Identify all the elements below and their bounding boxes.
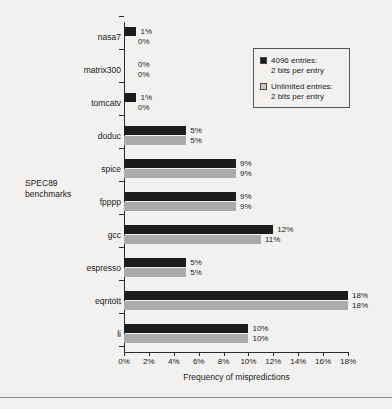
bar-value-label: 5% xyxy=(190,268,202,277)
chart-legend: 4096 entries: 2 bits per entry Unlimited… xyxy=(253,48,350,108)
bar-dark xyxy=(124,258,186,267)
x-axis-tick xyxy=(273,352,274,356)
y-axis-category-label-text: doduc xyxy=(3,131,121,141)
bar-value-label: 11% xyxy=(265,235,280,244)
x-axis-tick-label: 12% xyxy=(261,357,285,367)
bar-group: 18%18% xyxy=(124,291,348,310)
legend-swatch-dark-icon xyxy=(260,57,267,64)
bar-value-label: 18% xyxy=(352,301,368,310)
legend-entry-4096-line2: 2 bits per entry xyxy=(271,66,324,76)
y-axis-tick xyxy=(119,214,124,215)
y-axis-category-label-text: fpppp xyxy=(3,197,121,207)
x-axis-tick xyxy=(149,352,150,356)
bar-group: 9%9% xyxy=(124,159,348,178)
x-axis-tick-label: 0% xyxy=(112,357,136,367)
bar-light xyxy=(124,235,261,244)
bar-light xyxy=(124,202,236,211)
y-axis-category-label-text: espresso xyxy=(3,263,121,273)
bar-group: 5%5% xyxy=(124,126,348,145)
x-axis-line xyxy=(124,352,349,353)
bar-value-label: 0% xyxy=(138,60,150,69)
bar-light xyxy=(124,169,236,178)
bar-dark xyxy=(124,27,136,36)
bar-value-label: 0% xyxy=(138,70,150,79)
bar-value-label: 9% xyxy=(240,159,252,168)
y-axis-title-line1: SPEC89 xyxy=(25,178,71,189)
bar-light xyxy=(124,268,186,277)
legend-entry-4096-line1: 4096 entries: xyxy=(271,56,317,66)
x-axis-tick-label: 4% xyxy=(162,357,186,367)
y-axis-tick xyxy=(119,115,124,116)
y-axis-tick xyxy=(119,16,124,17)
y-axis-category-label-text: spice xyxy=(3,164,121,174)
bar-value-label: 5% xyxy=(190,136,202,145)
x-axis-title: Frequency of mispredictions xyxy=(124,372,349,382)
y-axis-tick xyxy=(119,148,124,149)
x-axis-tick-label: 2% xyxy=(137,357,161,367)
bar-value-label: 1% xyxy=(140,93,152,102)
y-axis-tick xyxy=(119,280,124,281)
bar-dark xyxy=(124,192,236,201)
x-axis-tick xyxy=(174,352,175,356)
bar-group: 1%0% xyxy=(124,27,348,46)
bar-value-label: 10% xyxy=(252,324,268,333)
y-axis-category-label-text: eqntott xyxy=(3,296,121,306)
bar-chart-figure: SPEC89 benchmarks nasa71%0%matrix3000%0%… xyxy=(0,0,392,409)
y-axis-category-label-text: tomcatv xyxy=(3,98,121,108)
y-axis-category-label-text: matrix300 xyxy=(3,65,121,75)
x-axis-tick xyxy=(224,352,225,356)
bar-value-label: 18% xyxy=(352,291,368,300)
legend-swatch-light-icon xyxy=(260,83,267,90)
y-axis-category-label-text: nasa7 xyxy=(3,32,121,42)
x-axis-tick-label: 10% xyxy=(236,357,260,367)
x-axis-tick xyxy=(323,352,324,356)
x-axis-tick-label: 8% xyxy=(212,357,236,367)
y-axis-category-label-text: gcc xyxy=(3,230,121,240)
x-axis-tick xyxy=(248,352,249,356)
x-axis-tick xyxy=(298,352,299,356)
bar-dark xyxy=(124,126,186,135)
y-axis-tick xyxy=(119,313,124,314)
bar-value-label: 9% xyxy=(240,202,252,211)
bar-group: 12%11% xyxy=(124,225,348,244)
x-axis-tick-label: 16% xyxy=(311,357,335,367)
x-axis-tick-label: 18% xyxy=(336,357,360,367)
y-axis-tick xyxy=(119,49,124,50)
y-axis-tick xyxy=(119,82,124,83)
bar-value-label: 0% xyxy=(138,103,150,112)
bar-light xyxy=(124,136,186,145)
x-axis-tick-label: 6% xyxy=(187,357,211,367)
x-axis-tick xyxy=(199,352,200,356)
legend-entry-unlimited-line2: 2 bits per entry xyxy=(271,92,324,102)
bar-value-label: 9% xyxy=(240,169,252,178)
bar-value-label: 5% xyxy=(190,258,202,267)
bar-value-label: 0% xyxy=(138,37,150,46)
bar-light xyxy=(124,334,248,343)
bar-value-label: 12% xyxy=(277,225,293,234)
legend-entry-unlimited-line1: Unlimited entries: xyxy=(271,82,333,92)
bar-value-label: 9% xyxy=(240,192,252,201)
bar-dark xyxy=(124,159,236,168)
bar-value-label: 10% xyxy=(252,334,268,343)
bar-group: 9%9% xyxy=(124,192,348,211)
x-axis-tick xyxy=(124,352,125,356)
bar-light xyxy=(124,301,348,310)
y-axis-tick xyxy=(119,181,124,182)
x-axis-tick-label: 14% xyxy=(286,357,310,367)
bar-dark xyxy=(124,291,348,300)
y-axis-category-label-text: li xyxy=(3,329,121,339)
y-axis-tick xyxy=(119,346,124,347)
y-axis-tick xyxy=(119,247,124,248)
bar-group: 5%5% xyxy=(124,258,348,277)
bar-dark xyxy=(124,324,248,333)
x-axis-tick xyxy=(348,352,349,356)
bar-dark xyxy=(124,93,136,102)
bar-dark xyxy=(124,225,273,234)
page-bottom-rule xyxy=(0,397,392,398)
bar-value-label: 1% xyxy=(140,27,152,36)
bar-value-label: 5% xyxy=(190,126,202,135)
bar-group: 10%10% xyxy=(124,324,348,343)
